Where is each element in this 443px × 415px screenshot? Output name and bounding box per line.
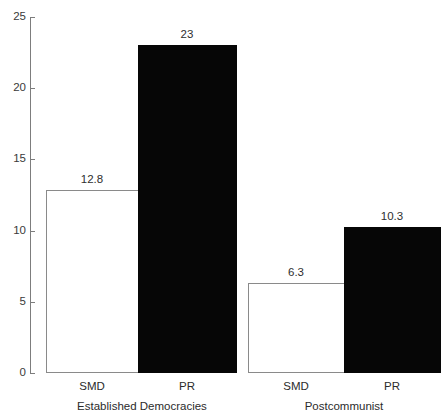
x-category-label-established-democracies-smd: SMD <box>62 381 122 393</box>
x-group-label-postcommunist: Postcommunist <box>244 401 443 413</box>
bar-value-postcommunist-smd: 6.3 <box>266 267 326 279</box>
x-category-label-postcommunist-smd: SMD <box>266 381 326 393</box>
x-group-label-established-democracies: Established Democracies <box>42 401 242 413</box>
bar-value-established-democracies-smd: 12.8 <box>62 174 122 186</box>
bar-value-established-democracies-pr: 23 <box>157 29 217 41</box>
bar-established-democracies-smd[interactable] <box>46 190 139 373</box>
x-category-label-established-democracies-pr: PR <box>157 381 217 393</box>
bar-established-democracies-pr[interactable] <box>138 45 237 373</box>
bar-postcommunist-smd[interactable] <box>248 283 345 373</box>
plot-area: 12.8 23 6.3 10.3 <box>0 0 443 415</box>
bar-postcommunist-pr[interactable] <box>344 227 441 373</box>
bar-value-postcommunist-pr: 10.3 <box>362 211 422 223</box>
bar-chart: 25 20 15 10 5 0 12.8 23 6.3 10.3 SMD PR … <box>0 0 443 415</box>
x-category-label-postcommunist-pr: PR <box>362 381 422 393</box>
